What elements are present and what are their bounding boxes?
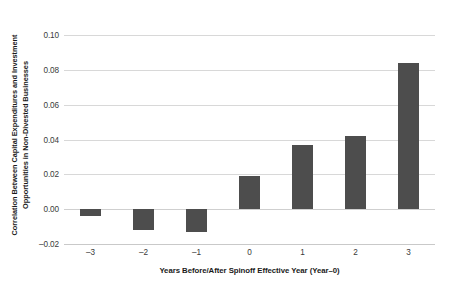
x-axis-tick-labels: –3–2–10123 — [64, 248, 435, 262]
y-axis-tick-label: 0.04 — [25, 135, 59, 144]
bar — [133, 209, 153, 230]
y-axis-tick-label: 0.06 — [25, 100, 59, 109]
x-axis-tick-label: 0 — [247, 248, 251, 257]
y-axis-tick-label: –0.02 — [25, 240, 59, 249]
y-axis-tick-label: 0.00 — [25, 205, 59, 214]
y-axis-tick-label: 0.02 — [25, 170, 59, 179]
x-axis-tick-label: –2 — [139, 248, 148, 257]
bar — [345, 136, 365, 209]
x-axis-tick-label: –1 — [192, 248, 201, 257]
bar-series — [64, 35, 435, 244]
x-axis-tick-label: 1 — [300, 248, 304, 257]
bar — [186, 209, 206, 232]
y-axis-tick-labels: 0.100.080.060.040.020.00–0.02 — [21, 0, 59, 293]
y-axis-tick-label: 0.10 — [25, 31, 59, 40]
y-axis-label-line-1: Correlation Between Capital Expenditures… — [9, 4, 20, 266]
plot-area — [64, 35, 435, 244]
bar — [292, 145, 312, 209]
x-axis-tick-label: 3 — [406, 248, 410, 257]
bar-chart-figure: Correlation Between Capital Expenditures… — [0, 0, 451, 293]
y-axis-tick-label: 0.08 — [25, 65, 59, 74]
bar — [80, 209, 100, 216]
bar — [398, 63, 418, 209]
x-axis-tick-label: –3 — [86, 248, 95, 257]
gridline — [64, 244, 435, 245]
bar — [239, 176, 259, 209]
x-axis-tick-label: 2 — [353, 248, 357, 257]
x-axis-label: Years Before/After Spinoff Effective Yea… — [64, 266, 435, 275]
